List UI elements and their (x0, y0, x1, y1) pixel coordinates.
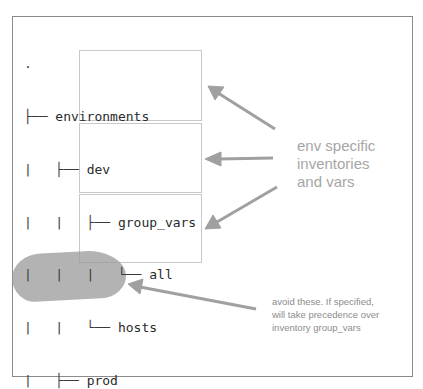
env-specific-annotation: env specific inventories and vars (297, 137, 375, 191)
arrowhead-icon (208, 86, 224, 100)
arrowhead-icon (205, 152, 221, 166)
arrowhead-icon (128, 279, 143, 294)
arrow-icon (140, 287, 256, 309)
arrow-icon (218, 158, 273, 159)
avoid-note-annotation: avoid these. If specified, will take pre… (272, 295, 379, 334)
arrow-icon (217, 187, 277, 222)
arrow-icon (218, 93, 275, 129)
